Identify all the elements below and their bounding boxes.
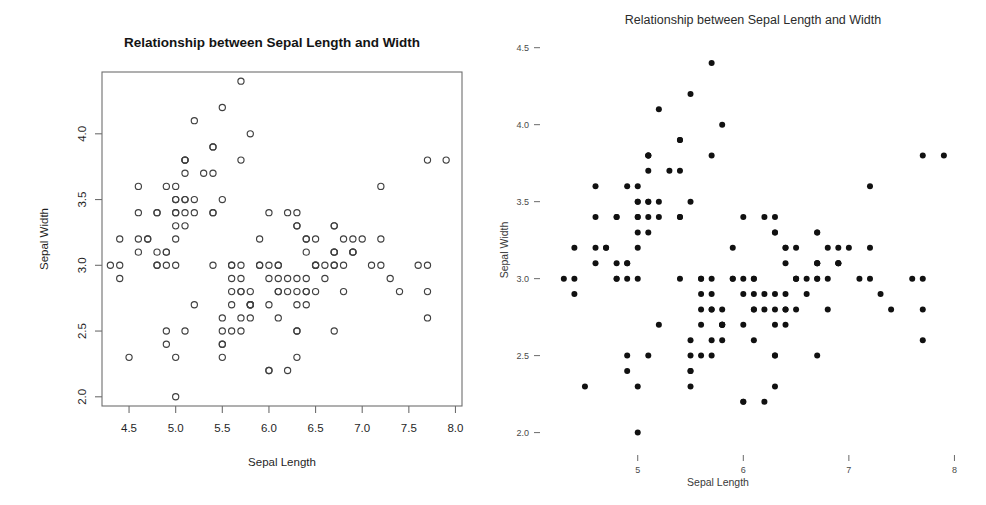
data-point xyxy=(635,276,641,282)
data-point xyxy=(624,260,630,266)
data-point xyxy=(783,306,789,312)
data-point xyxy=(645,229,651,235)
data-point xyxy=(266,367,272,373)
scatter-panel-right: Relationship between Sepal Length and Wi… xyxy=(493,0,986,505)
y-tick-label: 2.0 xyxy=(516,428,529,438)
data-point xyxy=(804,276,810,282)
data-point xyxy=(182,210,188,216)
plot-title-left: Relationship between Sepal Length and Wi… xyxy=(124,35,420,50)
data-point xyxy=(645,353,651,359)
x-tick-label: 6.5 xyxy=(308,422,324,434)
data-point xyxy=(210,210,216,216)
data-point xyxy=(582,383,588,389)
data-point xyxy=(163,183,169,189)
data-points-left xyxy=(107,78,449,400)
data-point xyxy=(593,260,599,266)
data-point xyxy=(867,183,873,189)
data-point xyxy=(378,183,384,189)
data-point xyxy=(772,322,778,328)
y-tick-label: 3.0 xyxy=(76,257,88,273)
data-point xyxy=(331,249,337,255)
data-point xyxy=(191,302,197,308)
data-point xyxy=(888,306,894,312)
data-point xyxy=(350,249,356,255)
data-point xyxy=(182,223,188,229)
data-point xyxy=(331,262,337,268)
data-point xyxy=(645,152,651,158)
data-point xyxy=(635,214,641,220)
y-axis-ticks-left: 2.02.53.03.54.0 xyxy=(76,126,102,405)
data-point xyxy=(624,353,630,359)
data-point xyxy=(751,276,757,282)
data-points-right xyxy=(561,60,947,436)
data-point xyxy=(443,157,449,163)
data-point xyxy=(266,275,272,281)
data-point xyxy=(688,353,694,359)
data-point xyxy=(740,399,746,405)
data-point xyxy=(154,262,160,268)
x-tick-label: 8 xyxy=(952,465,957,475)
data-point xyxy=(294,210,300,216)
data-point xyxy=(229,302,235,308)
data-point xyxy=(294,302,300,308)
data-point xyxy=(294,289,300,295)
data-point xyxy=(698,306,704,312)
data-point xyxy=(814,260,820,266)
data-point xyxy=(772,229,778,235)
data-point xyxy=(322,262,328,268)
data-point xyxy=(814,276,820,282)
data-point xyxy=(825,245,831,251)
data-point xyxy=(303,249,309,255)
x-axis-ticks-left: 4.55.05.56.06.57.07.58.0 xyxy=(121,406,463,434)
data-point xyxy=(635,199,641,205)
data-point xyxy=(814,229,820,235)
data-point xyxy=(266,262,272,268)
data-point xyxy=(275,262,281,268)
data-point xyxy=(846,245,852,251)
data-point xyxy=(740,291,746,297)
data-point xyxy=(656,106,662,112)
data-point xyxy=(878,291,884,297)
data-point xyxy=(677,276,683,282)
y-axis-title-left: Sepal Width xyxy=(38,208,50,270)
data-point xyxy=(867,276,873,282)
x-tick-label: 8.0 xyxy=(447,422,463,434)
data-point xyxy=(285,367,291,373)
x-tick-label: 5.5 xyxy=(214,422,230,434)
data-point xyxy=(740,214,746,220)
data-point xyxy=(688,368,694,374)
data-point xyxy=(303,275,309,281)
data-point xyxy=(173,262,179,268)
y-tick-label: 3.0 xyxy=(516,274,529,284)
data-point xyxy=(698,291,704,297)
data-point xyxy=(285,289,291,295)
data-point xyxy=(219,328,225,334)
data-point xyxy=(793,306,799,312)
data-point xyxy=(135,236,141,242)
data-point xyxy=(635,229,641,235)
data-point xyxy=(191,210,197,216)
data-point xyxy=(182,328,188,334)
data-point xyxy=(135,183,141,189)
data-point xyxy=(424,315,430,321)
data-point xyxy=(275,289,281,295)
data-point xyxy=(698,322,704,328)
x-tick-label: 6.0 xyxy=(261,422,277,434)
data-point xyxy=(359,236,365,242)
data-point xyxy=(909,276,915,282)
data-point xyxy=(173,196,179,202)
data-point xyxy=(229,328,235,334)
data-point xyxy=(229,289,235,295)
data-point xyxy=(941,152,947,158)
data-point xyxy=(624,368,630,374)
data-point xyxy=(247,131,253,137)
data-point xyxy=(656,199,662,205)
data-point xyxy=(677,137,683,143)
data-point xyxy=(635,383,641,389)
x-axis-title-right: Sepal Length xyxy=(687,476,749,488)
data-point xyxy=(210,144,216,150)
y-tick-label: 2.0 xyxy=(76,389,88,405)
data-point xyxy=(266,210,272,216)
data-point xyxy=(238,328,244,334)
data-point xyxy=(856,276,862,282)
